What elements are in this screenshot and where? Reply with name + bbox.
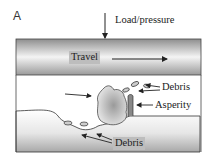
upper-surface (16, 39, 201, 75)
wear-mechanism-diagram: A Load/pressure Travel Debris Asperity D… (0, 0, 206, 162)
panel-label: A (13, 9, 21, 23)
particle-arrow (65, 94, 91, 96)
debris-top-label: Debris (162, 82, 190, 93)
debris-flake (80, 122, 88, 126)
debris-flake (64, 121, 72, 125)
debris-flake (122, 87, 130, 93)
asperity (128, 95, 133, 117)
debris-flake (143, 84, 151, 89)
asperity-label: Asperity (155, 100, 191, 111)
debris-flake (131, 80, 140, 87)
wear-particle (97, 86, 126, 125)
debris-bottom-label: Debris (113, 137, 145, 150)
debris-top-arrow (139, 90, 160, 91)
load-pressure-label: Load/pressure (115, 15, 174, 26)
travel-label: Travel (69, 51, 100, 64)
